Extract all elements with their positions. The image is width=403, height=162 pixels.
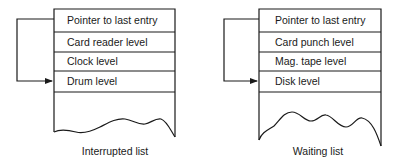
diagram-caption: Waiting list <box>293 145 343 157</box>
row-label: Drum level <box>67 75 117 87</box>
row-label: Card punch level <box>275 36 354 48</box>
pointer-arrow-icon <box>17 19 54 81</box>
pointer-arrow-icon <box>224 19 259 81</box>
torn-edge <box>54 119 175 137</box>
torn-edge <box>259 112 381 146</box>
diagram-canvas: Pointer to last entry Card reader level … <box>0 0 403 162</box>
interrupted-list-frame <box>54 9 175 137</box>
row-label: Disk level <box>275 75 320 87</box>
diagram-caption: Interrupted list <box>82 145 149 157</box>
row-label: Clock level <box>67 55 118 67</box>
row-label: Mag. tape level <box>275 55 346 67</box>
row-label: Pointer to last entry <box>67 14 158 26</box>
waiting-list-diagram: Pointer to last entry Card punch level M… <box>224 9 381 157</box>
row-label: Pointer to last entry <box>275 14 366 26</box>
row-label: Card reader level <box>67 36 148 48</box>
interrupted-list-diagram: Pointer to last entry Card reader level … <box>17 9 175 157</box>
